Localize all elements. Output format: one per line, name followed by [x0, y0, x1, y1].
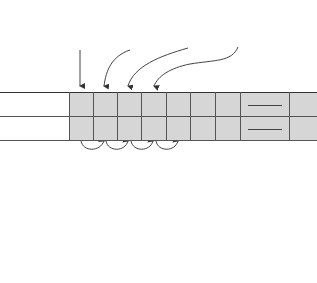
step-cell: [166, 93, 190, 117]
dash-line: [248, 105, 282, 106]
step-cell: [289, 93, 317, 117]
dot-pattern-diagram: [0, 0, 317, 283]
dots-cell: [190, 117, 215, 141]
row-label-step: [0, 93, 69, 117]
step-row: [0, 93, 317, 117]
step-cell: [117, 93, 141, 117]
step-cell: [69, 93, 93, 117]
dots-row: [0, 117, 317, 141]
dots-cell: [215, 117, 240, 141]
increment-arcs: [81, 141, 178, 149]
dash-line: [248, 129, 282, 130]
step-cell-ellipsis: [240, 93, 289, 117]
dots-cell: [141, 117, 166, 141]
dots-cell: [69, 117, 93, 141]
step-cell: [190, 93, 215, 117]
step-arrows: [80, 47, 238, 86]
dots-cell: [166, 117, 190, 141]
step-cell: [141, 93, 166, 117]
step-cell: [215, 93, 240, 117]
steps-table: [0, 92, 317, 141]
dots-cell: [93, 117, 117, 141]
dots-cell: [289, 117, 317, 141]
dots-cell-ellipsis: [240, 117, 289, 141]
row-label-dots: [0, 117, 69, 141]
dots-cell: [117, 117, 141, 141]
step-cell: [93, 93, 117, 117]
